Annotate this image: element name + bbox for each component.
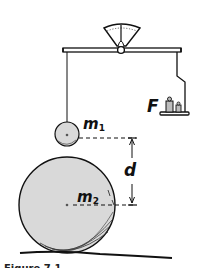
- label-m1-subscript: 1: [99, 123, 105, 133]
- label-m2-subscript: 2: [93, 196, 99, 206]
- label-m1-symbol: m: [83, 115, 99, 133]
- diagram-canvas: [0, 0, 199, 270]
- label-force: F: [147, 98, 159, 115]
- pivot-icon: [118, 47, 125, 54]
- small-sphere-m1: [55, 122, 79, 146]
- ground: [20, 252, 172, 258]
- weight-pan: [160, 112, 189, 115]
- label-distance: d: [124, 162, 136, 179]
- large-sphere-m2: [19, 157, 115, 253]
- label-m2: m2: [77, 190, 99, 206]
- gravitation-balance-diagram: m1 m2 d F Figure 7.1: [0, 0, 199, 270]
- label-m1: m1: [83, 117, 105, 133]
- label-m2-symbol: m: [77, 188, 93, 206]
- weights-icon: [166, 97, 181, 112]
- scale-dial: [104, 24, 140, 46]
